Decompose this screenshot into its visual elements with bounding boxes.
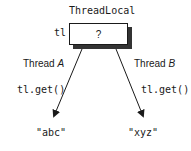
thread-b-id: B	[168, 58, 175, 69]
arrows	[0, 0, 191, 151]
thread-b-call: tl.get()	[141, 84, 189, 95]
thread-b-label: Thread B	[134, 58, 175, 69]
thread-a-id: A	[57, 58, 64, 69]
thread-a-call: tl.get()	[17, 84, 65, 95]
thread-a-result: "abc"	[36, 127, 66, 138]
thread-b-result: "xyz"	[128, 127, 158, 138]
thread-a-label: Thread A	[23, 58, 64, 69]
